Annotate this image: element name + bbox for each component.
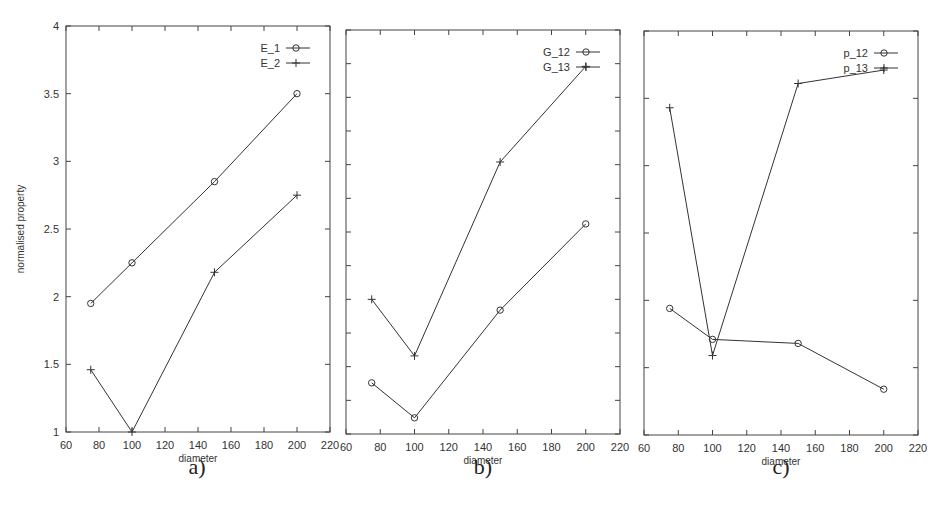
panel-b-chart: 6080100120140160180200220diameterG_12G_1…	[340, 30, 629, 466]
x-tick-label: 180	[255, 439, 273, 451]
x-tick-label: 220	[611, 441, 629, 453]
x-tick-label: 100	[123, 439, 141, 451]
y-axis-title: normalised property	[15, 185, 26, 273]
legend-label: G_12	[543, 46, 570, 58]
x-tick-label: 140	[189, 439, 207, 451]
plot-frame	[346, 30, 620, 434]
series-line	[91, 195, 297, 432]
plus-marker-icon	[368, 295, 376, 303]
x-tick-label: 60	[340, 441, 352, 453]
series-p-13	[666, 66, 888, 359]
panel-label-a: a)	[188, 454, 205, 479]
x-tick-label: 60	[638, 442, 650, 454]
series-line	[372, 66, 586, 356]
y-tick-label: 4	[53, 20, 59, 32]
x-tick-label: 200	[875, 442, 893, 454]
x-tick-label: 120	[738, 442, 756, 454]
x-tick-label: 200	[288, 439, 306, 451]
x-tick-label: 120	[440, 441, 458, 453]
x-tick-label: 80	[374, 441, 386, 453]
plus-marker-icon	[128, 428, 136, 436]
x-tick-label: 80	[672, 442, 684, 454]
panel-label-b: b)	[474, 454, 492, 479]
plus-marker-icon	[87, 366, 95, 374]
x-tick-label: 160	[806, 442, 824, 454]
x-tick-label: 140	[474, 441, 492, 453]
x-tick-label: 220	[909, 442, 927, 454]
plus-marker-icon	[666, 104, 674, 112]
y-tick-label: 3.5	[44, 88, 59, 100]
series-g-12	[368, 221, 588, 421]
plus-marker-icon	[794, 80, 802, 88]
x-tick-label: 180	[840, 442, 858, 454]
plus-marker-icon	[709, 352, 717, 360]
y-tick-label: 3	[53, 155, 59, 167]
plot-frame	[644, 31, 918, 435]
series-line	[91, 94, 297, 304]
x-tick-label: 180	[542, 441, 560, 453]
panel-c-chart: 6080100120140160180200220diameterp_12p_1…	[638, 31, 927, 467]
series-line	[670, 308, 884, 389]
series-p-12	[666, 305, 886, 392]
x-tick-label: 160	[508, 441, 526, 453]
legend-label: E_1	[260, 42, 280, 54]
x-tick-label: 80	[93, 439, 105, 451]
y-tick-label: 2.5	[44, 223, 59, 235]
legend-label: p_13	[844, 62, 868, 74]
x-tick-label: 100	[703, 442, 721, 454]
series-g-13	[368, 62, 590, 360]
series-e-1	[88, 90, 301, 306]
panel-a-chart: 6080100120140160180200220diameter11.522.…	[44, 20, 339, 464]
legend-label: p_12	[844, 47, 868, 59]
series-line	[670, 70, 884, 355]
legend-label: G_13	[543, 61, 570, 73]
plus-marker-icon	[292, 59, 300, 67]
x-tick-label: 220	[321, 439, 339, 451]
x-tick-label: 160	[222, 439, 240, 451]
x-tick-label: 140	[772, 442, 790, 454]
y-tick-label: 1	[53, 426, 59, 438]
series-line	[372, 224, 586, 418]
x-tick-label: 200	[577, 441, 595, 453]
panel-label-c: c)	[772, 454, 789, 479]
legend-label: E_2	[260, 57, 280, 69]
x-tick-label: 100	[405, 441, 423, 453]
x-tick-label: 60	[60, 439, 72, 451]
y-tick-label: 1.5	[44, 358, 59, 370]
y-tick-label: 2	[53, 291, 59, 303]
figure: 6080100120140160180200220diameter11.522.…	[0, 0, 942, 519]
x-tick-label: 120	[156, 439, 174, 451]
series-e-2	[87, 191, 301, 436]
plot-frame	[66, 26, 330, 432]
plus-marker-icon	[411, 352, 419, 360]
